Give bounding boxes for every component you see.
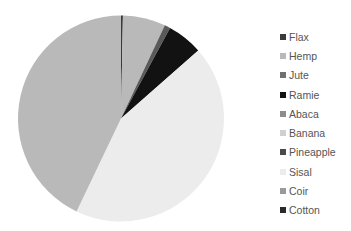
legend-swatch [280,111,286,117]
legend-label: Ramie [289,89,319,101]
legend-item-jute: Jute [280,66,336,85]
legend-swatch [280,53,286,59]
legend-item-pineapple: Pineapple [280,143,336,162]
legend-swatch [280,34,286,40]
legend-label: Coir [289,185,308,197]
legend-label: Abaca [289,108,319,120]
legend-swatch [280,169,286,175]
legend-swatch [280,72,286,78]
legend-label: Banana [289,127,325,139]
pie-slices [18,16,224,222]
legend-item-banana: Banana [280,123,336,142]
legend-swatch [280,92,286,98]
legend-label: Hemp [289,50,317,62]
legend-item-ramie: Ramie [280,85,336,104]
legend-swatch [280,188,286,194]
legend-swatch [280,207,286,213]
legend-swatch [280,149,286,155]
legend-label: Sisal [289,166,312,178]
legend-item-sisal: Sisal [280,162,336,181]
legend-item-flax: Flax [280,27,336,46]
legend-label: Flax [289,31,309,43]
legend-label: Jute [289,69,309,81]
legend-label: Pineapple [289,146,336,158]
legend: Flax Hemp Jute Ramie Abaca Banana Pineap… [280,27,336,220]
legend-swatch [280,130,286,136]
legend-item-abaca: Abaca [280,104,336,123]
legend-label: Cotton [289,204,320,216]
legend-item-cotton: Cotton [280,201,336,220]
legend-item-coir: Coir [280,181,336,200]
legend-item-hemp: Hemp [280,46,336,65]
